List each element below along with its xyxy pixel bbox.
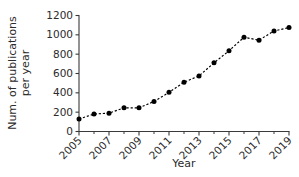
data-point-2010 [152,99,157,104]
data-point-2007 [107,111,112,116]
data-point-2017 [257,38,262,43]
y-tick-label-800: 800 [53,48,73,60]
data-point-2008 [122,105,127,110]
x-tick-label-2011: 2011 [147,134,174,161]
data-point-2014 [212,60,217,65]
x-tick-label-2017: 2017 [237,134,264,161]
y-tick-label-400: 400 [53,86,73,98]
data-point-2019 [287,25,292,30]
x-axis-title: Year [171,157,196,170]
data-point-2011 [167,90,172,95]
data-point-2009 [137,105,142,110]
y-tick-label-600: 600 [53,67,73,79]
data-series-publications [77,25,292,121]
publications-per-year-line-chart: 020040060080010001200 200520072009201120… [0,0,299,177]
data-point-2012 [182,80,187,85]
chart-figure: 020040060080010001200 200520072009201120… [0,0,299,177]
x-tick-label-2005: 2005 [57,134,84,161]
y-axis-title-line-2: per year [19,49,32,96]
x-tick-label-2009: 2009 [117,134,144,161]
data-point-2013 [197,73,202,78]
y-tick-label-0: 0 [66,125,73,137]
data-point-2005 [77,116,82,121]
x-tick-label-2007: 2007 [87,134,114,161]
y-axis-tick-labels: 020040060080010001200 [46,9,73,137]
data-point-2018 [272,28,277,33]
y-tick-label-1200: 1200 [46,9,73,21]
y-axis-title-line-1: Num. of publications [6,16,19,130]
series-markers [77,25,292,121]
y-tick-label-200: 200 [53,106,73,118]
x-tick-label-2019: 2019 [267,134,294,161]
x-tick-label-2015: 2015 [207,134,234,161]
y-tick-label-1000: 1000 [46,28,73,40]
data-point-2016 [242,35,247,40]
data-point-2015 [227,48,232,53]
data-point-2006 [92,112,97,117]
